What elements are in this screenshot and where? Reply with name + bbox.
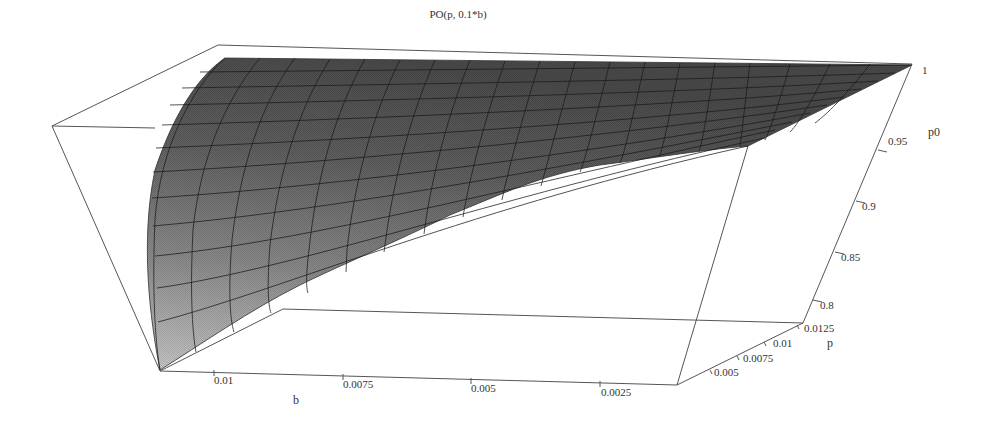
y-tick-label: 0.01 xyxy=(773,337,792,349)
z-tick-label: 0.8 xyxy=(820,299,834,311)
y-axis-label: p xyxy=(827,336,833,350)
x-tick-label: 0.01 xyxy=(214,374,233,386)
surface-plot: PO(p, 0.1*b) xyxy=(0,0,986,422)
z-tick-label: 0.95 xyxy=(888,135,908,147)
x-tick-label: 0.0025 xyxy=(601,386,632,398)
z-tick-label: 0.85 xyxy=(841,251,861,263)
x-tick-label: 0.0075 xyxy=(343,378,374,390)
chart-title: PO(p, 0.1*b) xyxy=(429,8,486,21)
y-tick-label: 0.0125 xyxy=(804,322,835,334)
x-axis: 0.01 0.0075 0.005 0.0025 b xyxy=(214,370,632,407)
y-tick-label: 0.0075 xyxy=(743,352,774,364)
z-tick-label: 1 xyxy=(922,64,928,76)
y-tick-label: 0.005 xyxy=(714,366,739,378)
z-axis-label: p0 xyxy=(928,125,940,139)
x-tick-label: 0.005 xyxy=(471,382,496,394)
z-tick-label: 0.9 xyxy=(862,200,876,212)
x-axis-label: b xyxy=(293,393,299,407)
y-axis: 0.005 0.0075 0.01 0.0125 p xyxy=(710,322,835,378)
